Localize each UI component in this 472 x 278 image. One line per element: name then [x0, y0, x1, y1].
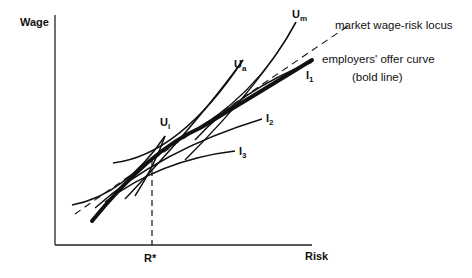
ui-label: Ui — [160, 116, 170, 131]
isoprofit-curve-i3 — [105, 151, 235, 202]
i2-label: I2 — [266, 112, 274, 127]
offer-curve-label: employers' offer curve — [322, 53, 435, 65]
um-label: Um — [292, 8, 307, 23]
x-axis-label: Risk — [305, 250, 329, 262]
y-axis-label: Wage — [20, 16, 49, 28]
offer-curve-sublabel: (bold line) — [352, 71, 403, 83]
i3-label: I3 — [239, 145, 247, 160]
market-locus-label: market wage-risk locus — [335, 19, 453, 31]
r-star-label: R* — [144, 252, 157, 264]
wage-risk-diagram: Wage Risk R* market wage-risk locus empl… — [0, 0, 472, 278]
indifference-curve-um — [185, 22, 296, 160]
indifference-curve-ui-upper — [135, 136, 165, 196]
i1-label: I1 — [306, 69, 314, 84]
